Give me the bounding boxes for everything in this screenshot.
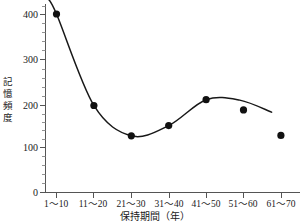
data-point (128, 132, 135, 139)
x-axis-title: 保持期間（年） (120, 210, 190, 222)
y-axis-title-char-4: 度 (3, 112, 13, 123)
y-tick-label-400: 400 (23, 9, 38, 20)
data-point (53, 10, 60, 17)
memory-frequency-scatter-chart: 0 100 200 300 400 記 憶 頻 度 1〜10 11〜20 21〜… (0, 0, 304, 223)
data-point (203, 96, 210, 103)
chart-container: 0 100 200 300 400 記 憶 頻 度 1〜10 11〜20 21〜… (0, 0, 304, 223)
x-tick-label-6: 51〜60 (229, 199, 258, 209)
y-tick-label-200: 200 (23, 100, 38, 111)
data-point (165, 122, 172, 129)
data-point (90, 102, 97, 109)
y-tick-label-100: 100 (23, 142, 38, 153)
y-axis-title-char-3: 頻 (3, 100, 13, 111)
y-axis-title-char-1: 記 (3, 76, 13, 87)
x-tick-label-2: 11〜20 (79, 199, 108, 209)
data-point (277, 132, 284, 139)
x-tick-label-5: 41〜50 (192, 199, 221, 209)
y-tick-label-300: 300 (23, 54, 38, 65)
data-point (240, 106, 247, 113)
y-axis-title: 記 憶 頻 度 (3, 76, 13, 123)
y-axis-title-char-2: 憶 (3, 88, 13, 99)
y-tick-label-0: 0 (33, 187, 38, 198)
x-tick-label-3: 21〜30 (117, 199, 146, 209)
x-tick-label-4: 31〜40 (155, 199, 184, 209)
x-tick-label-7: 61〜70 (267, 199, 296, 209)
x-tick-label-1: 1〜10 (44, 199, 69, 209)
